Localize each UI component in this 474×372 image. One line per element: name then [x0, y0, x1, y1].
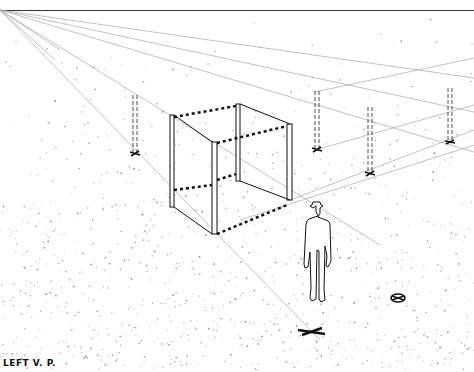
ground-marker — [391, 294, 405, 302]
perspective-drawing: LEFT V. P. — [0, 0, 474, 372]
drawing-svg — [0, 0, 474, 372]
left-vp-label: LEFT V. P. — [3, 358, 56, 368]
ground-stipple — [0, 19, 474, 371]
cube-dashed-rails — [174, 106, 287, 234]
man-figure — [298, 202, 331, 335]
